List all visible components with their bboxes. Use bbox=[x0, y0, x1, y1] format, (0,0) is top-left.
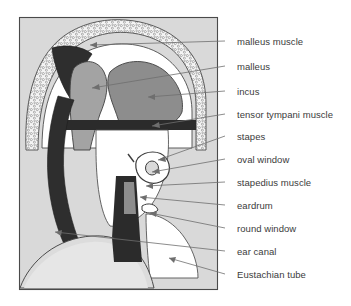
label-incus: incus bbox=[237, 87, 259, 97]
label-eustachian-tube: Eustachian tube bbox=[237, 270, 306, 280]
label-round-window: round window bbox=[237, 224, 296, 234]
ear-anatomy-figure: malleus muscle malleus incus tensor tymp… bbox=[0, 0, 351, 306]
label-stapes: stapes bbox=[237, 132, 265, 142]
label-malleus: malleus bbox=[237, 62, 270, 72]
label-stapedius-muscle: stapedius muscle bbox=[237, 178, 311, 188]
label-tensor-tympani-muscle: tensor tympani muscle bbox=[237, 110, 333, 120]
label-eardrum: eardrum bbox=[237, 201, 273, 211]
label-oval-window: oval window bbox=[237, 155, 289, 165]
label-ear-canal: ear canal bbox=[237, 247, 277, 257]
ear-canal-inner bbox=[124, 182, 136, 214]
label-malleus-muscle: malleus muscle bbox=[237, 37, 303, 47]
